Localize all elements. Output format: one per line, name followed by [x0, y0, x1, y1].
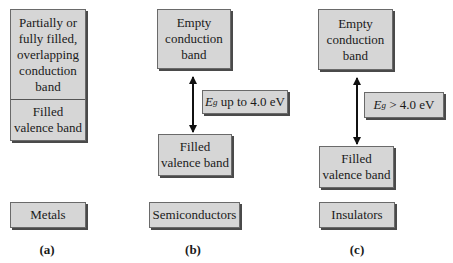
metal-band-stack: Partially or fully filled, overlapping c… — [10, 9, 86, 141]
insulator-valence-band-label: Filled valence band — [322, 151, 390, 183]
arrowhead-down-icon — [189, 125, 197, 133]
insulator-valence-band: Filled valence band — [319, 146, 394, 188]
metal-conduction-band: Partially or fully filled, overlapping c… — [11, 10, 85, 99]
arrowhead-down-icon — [353, 137, 361, 145]
semiconductors-label: Semiconductors — [153, 207, 237, 223]
metals-label-box: Metals — [10, 202, 86, 228]
metal-conduction-band-label: Partially or fully filled, overlapping c… — [17, 15, 79, 95]
semiconductor-conduction-band-label: Empty conduction band — [165, 15, 223, 63]
semiconductor-band-gap-label: Eg up to 4.0 eV — [202, 90, 288, 114]
arrowhead-up-icon — [353, 77, 361, 85]
metal-valence-band-label: Filled valence band — [14, 104, 82, 136]
energy-symbol: E — [374, 97, 382, 113]
caption-a: (a) — [39, 242, 54, 258]
insulator-conduction-band-label: Empty conduction band — [327, 16, 385, 64]
caption-c: (c) — [350, 242, 364, 258]
gap-value: up to 4.0 eV — [217, 94, 285, 110]
insulators-label: Insulators — [331, 207, 382, 223]
energy-symbol: E — [205, 94, 213, 110]
metals-label: Metals — [30, 207, 65, 223]
gap-value: > 4.0 eV — [386, 97, 435, 113]
double-arrow-icon — [192, 77, 194, 132]
semiconductor-valence-band: Filled valence band — [158, 134, 232, 176]
semiconductors-label-box: Semiconductors — [149, 202, 240, 228]
insulators-label-box: Insulators — [319, 202, 395, 228]
semiconductor-conduction-band: Empty conduction band — [157, 9, 231, 69]
arrowhead-up-icon — [189, 76, 197, 84]
insulator-band-gap-label: Eg > 4.0 eV — [364, 92, 444, 118]
metal-valence-band: Filled valence band — [11, 100, 85, 140]
caption-b: (b) — [185, 242, 201, 258]
semiconductor-valence-band-label: Filled valence band — [161, 139, 229, 171]
double-arrow-icon — [356, 78, 358, 144]
insulator-conduction-band: Empty conduction band — [318, 9, 393, 70]
